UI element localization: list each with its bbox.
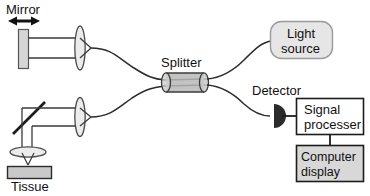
- fiber-reference-arm: [91, 48, 165, 80]
- light-source-label-line1: Light: [287, 26, 316, 41]
- light-source-label-line2: source: [281, 41, 320, 56]
- reference-arm-lens: [75, 26, 85, 70]
- detector-label: Detector: [252, 83, 302, 98]
- fiber-splitter: [162, 73, 209, 92]
- fiber-source: [207, 41, 272, 79]
- sample-arm-collimating-lens: [75, 98, 85, 137]
- computer-display-label-line2: display: [301, 165, 341, 179]
- signal-processor-label-line2: processer: [304, 117, 362, 132]
- computer-display-label-line1: Computer: [301, 150, 356, 164]
- figure-canvas: Mirror Splitter Light source Detector Si…: [0, 0, 370, 196]
- 45-degree-turning-mirror: [13, 102, 45, 134]
- signal-processor-label-line1: Signal: [304, 102, 340, 117]
- reference-mirror: [19, 30, 29, 69]
- splitter-label: Splitter: [161, 55, 202, 70]
- tissue-sample: [8, 167, 52, 179]
- interferometer-diagram: Mirror Splitter Light source Detector Si…: [0, 0, 370, 196]
- mirror-translation-arrow: [8, 17, 40, 26]
- fiber-sample-arm: [91, 86, 165, 117]
- mirror-label: Mirror: [6, 2, 41, 17]
- tissue-label: Tissue: [11, 179, 49, 194]
- beam-down-to-objective: [22, 108, 32, 150]
- beam-reference-arm: [28, 38, 80, 58]
- objective-lens: [10, 147, 46, 157]
